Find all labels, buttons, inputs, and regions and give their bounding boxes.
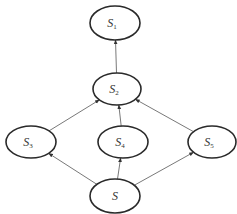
node-s3: S3 — [6, 126, 56, 158]
edge-s-to-s3 — [49, 153, 97, 184]
state-graph: S1S2S3S4S5S — [0, 0, 237, 214]
node-s4: S4 — [98, 126, 148, 158]
edges — [49, 40, 194, 185]
edge-s-to-s5 — [134, 152, 193, 185]
edge-s2-to-s1 — [116, 40, 117, 73]
node-s: S — [90, 179, 140, 213]
node-s1: S1 — [90, 6, 140, 40]
nodes: S1S2S3S4S5S — [6, 6, 236, 213]
node-s5: S5 — [188, 126, 236, 158]
node-s2: S2 — [93, 73, 141, 105]
node-label: S — [112, 189, 118, 203]
edge-s3-to-s2 — [49, 100, 99, 131]
edge-s5-to-s2 — [135, 99, 193, 131]
edge-s4-to-s2 — [119, 105, 121, 126]
edge-s-to-s4 — [118, 158, 121, 179]
